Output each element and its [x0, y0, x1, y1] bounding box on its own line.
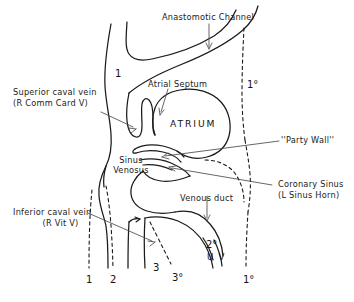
arrow-inferior-caval — [148, 241, 155, 246]
atrial-septum-label: Atrial Septum — [148, 79, 207, 90]
leader-atrial-septum — [161, 89, 168, 112]
marker-one-bottom: 1 — [86, 274, 92, 285]
marker-three-prime-bottom: 3° — [172, 272, 183, 283]
coronary-sinus-label-line2: (L Sinus Horn) — [278, 190, 339, 201]
inferior-caval-vein-label-line1: Inferior caval vein — [13, 207, 92, 218]
leader-party-wall — [165, 141, 279, 156]
inferior-caval-vein-label-line2: (R Vit V) — [13, 218, 108, 229]
anatomical-diagram: Anastomotic Channel Atrial Septum ATRIUM… — [0, 0, 354, 302]
dashed-1-prime-upper — [242, 28, 245, 140]
atrium-label: ATRIUM — [170, 118, 216, 129]
party-wall-label: ''Party Wall'' — [281, 135, 334, 146]
venous-duct-left-loop — [131, 171, 175, 213]
anastomotic-channel-label: Anastomotic Channel — [133, 12, 283, 23]
marker-3-line — [128, 222, 129, 268]
coronary-sinus-label-line1: Coronary Sinus — [278, 179, 344, 190]
leader-superior-caval — [101, 112, 133, 127]
diagram-canvas — [0, 0, 354, 302]
atrial-septum-crypt — [127, 93, 155, 137]
marker-one-prime-bottom: 1° — [243, 274, 254, 285]
venous-duct-label: Venous duct — [180, 193, 233, 204]
party-wall-tip — [133, 149, 136, 153]
marker-two-bottom: 2 — [110, 274, 116, 285]
lower-chamber-top — [145, 217, 213, 268]
marker-3-arrowhead — [135, 217, 140, 222]
sinus-venosus-label-line1: Sinus — [108, 155, 154, 166]
umbilical-vein-label: U V — [207, 252, 226, 262]
marker-two-prime-uv: 2° — [206, 239, 217, 250]
marker-one-prime-top-right: 1° — [247, 79, 258, 90]
dashed-1-bottom — [89, 190, 92, 268]
superior-caval-vein-label-line2: (R Comm Card V) — [13, 98, 88, 109]
marker-one-top-left: 1 — [115, 68, 121, 79]
sinus-venosus-label-line2: Venosus — [108, 165, 154, 176]
lower-chamber-left-wall — [144, 218, 145, 268]
dashed-1-prime-lower — [246, 212, 248, 266]
superior-caval-vein-outline — [99, 24, 111, 268]
dashed-1-prime-mid — [245, 140, 250, 212]
marker-three-bottom: 3 — [153, 262, 159, 273]
superior-caval-vein-label-line1: Superior caval vein — [13, 87, 97, 98]
